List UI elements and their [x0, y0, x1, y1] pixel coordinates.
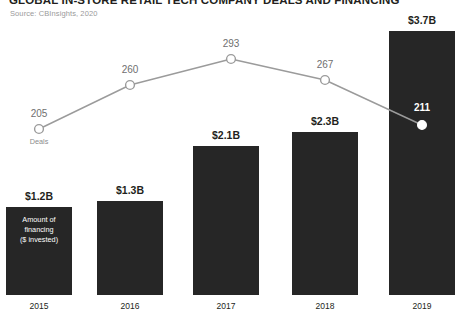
deals-marker-2016 [126, 81, 135, 90]
x-axis-label-2016: 2016 [97, 301, 163, 311]
x-axis-label-2019: 2019 [389, 301, 455, 311]
deals-value-label-2017: 293 [201, 38, 261, 49]
deals-marker-2017 [227, 55, 236, 64]
deals-value-label-2015: 205 [9, 108, 69, 119]
chart-container: GLOBAL IN-STORE RETAIL TECH COMPANY DEAL… [0, 0, 460, 313]
x-axis-label-2017: 2017 [193, 301, 259, 311]
deals-marker-2019 [418, 121, 427, 130]
deals-caption: Deals [9, 137, 69, 146]
deals-line-path [39, 59, 422, 129]
deals-marker-2015 [35, 125, 44, 134]
deals-value-label-2019: 211 [392, 102, 452, 113]
deals-value-label-2018: 267 [295, 59, 355, 70]
x-axis-label-2018: 2018 [292, 301, 358, 311]
deals-value-label-2016: 260 [100, 64, 160, 75]
x-axis-label-2015: 2015 [6, 301, 72, 311]
plot-area: $1.2B $1.3B $2.1B $2.3B $3.7B Amount of … [0, 0, 460, 313]
deals-marker-2018 [321, 76, 330, 85]
